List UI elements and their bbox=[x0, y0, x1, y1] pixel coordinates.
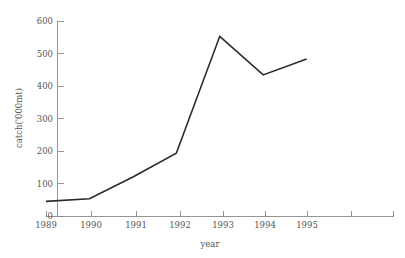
y-axis-title: catch('000mt) bbox=[14, 88, 24, 148]
y-tick-label-600: 600 bbox=[37, 16, 53, 26]
x-tick-label-1989: 1989 bbox=[35, 220, 57, 230]
catch-series-line bbox=[46, 36, 307, 201]
x-tick-label-1995: 1995 bbox=[296, 220, 318, 230]
x-tick-label-1990: 1990 bbox=[80, 220, 102, 230]
x-tick-label-1993: 1993 bbox=[212, 220, 234, 230]
line-chart: 600 500 400 300 200 100 0 1989 1990 1991… bbox=[0, 0, 405, 258]
chart-container: 600 500 400 300 200 100 0 1989 1990 1991… bbox=[0, 0, 405, 258]
x-tick-label-1994: 1994 bbox=[254, 220, 276, 230]
y-tick-label-400: 400 bbox=[37, 81, 53, 91]
x-tick-label-1991: 1991 bbox=[125, 220, 147, 230]
y-tick-label-200: 200 bbox=[37, 146, 53, 156]
y-tick-label-100: 100 bbox=[37, 179, 53, 189]
y-tick-label-300: 300 bbox=[37, 114, 53, 124]
x-axis-title: year bbox=[200, 239, 221, 249]
x-tick-label-1992: 1992 bbox=[169, 220, 191, 230]
y-tick-label-500: 500 bbox=[37, 49, 53, 59]
